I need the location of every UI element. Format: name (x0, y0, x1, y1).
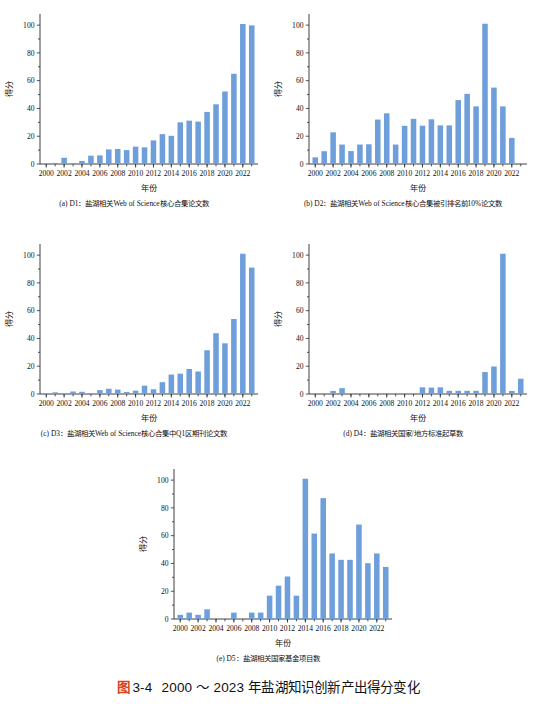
y-tick-label: 80 (296, 49, 304, 58)
bar (133, 147, 139, 164)
bar (320, 498, 326, 619)
x-tick-label: 2012 (280, 624, 295, 633)
x-tick-label: 2000 (39, 399, 54, 408)
x-tick-label: 2016 (182, 399, 197, 408)
bar (348, 151, 354, 164)
x-tick-label: 2004 (343, 399, 358, 408)
x-tick-label: 2000 (39, 169, 54, 178)
bar (303, 479, 309, 619)
y-tick-label: 60 (27, 76, 35, 85)
bar (473, 391, 479, 394)
bar (240, 24, 246, 164)
x-tick-label: 2004 (74, 169, 89, 178)
bar (267, 596, 273, 619)
bar (43, 164, 49, 165)
y-tick-label: 60 (296, 306, 304, 315)
y-tick-label: 80 (27, 49, 35, 58)
panel-caption-d: (d) D4：盐湖相关国家/地方标准起草数 (269, 428, 537, 439)
x-tick-label: 2008 (379, 399, 394, 408)
figure-title: 2000 ～ 2023 年盐湖知识创新产出得分变化 (162, 680, 420, 695)
y-tick-label: 0 (31, 390, 35, 399)
y-tick-label: 60 (27, 306, 35, 315)
bar (88, 156, 94, 164)
y-tick-label: 100 (23, 251, 35, 260)
y-tick-label: 100 (157, 476, 169, 485)
bar (106, 389, 112, 394)
panel-caption-c: (c) D3：盐湖相关Web of Science核心合集中Q1区期刊论文数 (0, 428, 268, 439)
x-tick-label: 2004 (208, 624, 223, 633)
x-tick-label: 2010 (397, 399, 412, 408)
bar (500, 254, 506, 394)
x-tick-label: 2008 (379, 169, 394, 178)
y-axis-title: 得分 (4, 311, 14, 327)
bar (455, 100, 461, 164)
bar (294, 596, 300, 619)
x-axis-title: 年份 (410, 183, 426, 193)
plot-area-e: 0204060801002000200220042006200820102012… (134, 455, 402, 653)
bar (97, 390, 103, 394)
figure-number: 3-4 (132, 680, 152, 695)
bar (97, 155, 103, 164)
bar (240, 254, 246, 394)
x-tick-label: 2020 (486, 169, 501, 178)
panel-b: 0204060801002000200220042006200820102012… (269, 0, 537, 230)
x-tick-label: 2022 (235, 399, 250, 408)
x-tick-label: 2004 (74, 399, 89, 408)
bar (186, 121, 192, 164)
bar (160, 382, 166, 394)
x-tick-label: 2010 (128, 169, 143, 178)
y-axis-title: 得分 (273, 81, 283, 97)
panel-e: 0204060801002000200220042006200820102012… (134, 455, 402, 685)
bar (330, 391, 336, 394)
bar (151, 389, 157, 394)
bar (178, 122, 184, 164)
bar (222, 343, 228, 394)
bar (231, 613, 237, 619)
x-axis-title: 年份 (410, 413, 426, 423)
x-tick-label: 2014 (433, 399, 448, 408)
x-tick-label: 2016 (316, 624, 331, 633)
x-tick-label: 2008 (110, 169, 125, 178)
bar (204, 350, 210, 394)
bar (115, 390, 121, 394)
bar (213, 333, 219, 394)
bar (160, 134, 166, 164)
y-tick-label: 0 (300, 160, 304, 169)
bar (365, 563, 371, 619)
x-tick-label: 2016 (451, 169, 466, 178)
bar (169, 136, 175, 164)
y-axis-title: 得分 (273, 311, 283, 327)
x-tick-label: 2022 (504, 399, 519, 408)
bar (186, 613, 192, 619)
bar (347, 560, 353, 619)
bar (195, 122, 201, 164)
panel-caption-e: (e) D5：盐湖相关国家基金项目数 (134, 653, 402, 664)
bar-chart-D4: 0204060801002000200220042006200820102012… (269, 230, 537, 428)
bar (195, 615, 201, 619)
x-tick-label: 2014 (164, 399, 179, 408)
panel-caption-a: (a) D1：盐湖相关Web of Science核心合集论文数 (0, 198, 268, 209)
figure-tag: 图 (117, 680, 130, 695)
x-tick-label: 2010 (262, 624, 277, 633)
x-tick-label: 2018 (199, 399, 214, 408)
bar (338, 560, 344, 619)
x-tick-label: 2014 (164, 169, 179, 178)
y-axis-title: 得分 (138, 536, 148, 552)
bar (393, 145, 399, 164)
bar (177, 615, 183, 619)
x-tick-label: 2006 (226, 624, 241, 633)
bar-chart-D3: 0204060801002000200220042006200820102012… (0, 230, 268, 428)
bar (231, 74, 237, 164)
bar (366, 144, 372, 164)
plot-area-a: 0204060801002000200220042006200820102012… (0, 0, 268, 198)
bar (491, 367, 497, 395)
bar (356, 525, 362, 619)
plot-area-b: 0204060801002000200220042006200820102012… (269, 0, 537, 198)
bar (124, 150, 130, 164)
y-tick-label: 40 (161, 559, 169, 568)
y-tick-label: 20 (161, 587, 169, 596)
x-tick-label: 2002 (57, 169, 72, 178)
y-tick-label: 40 (296, 334, 304, 343)
bar (249, 613, 255, 619)
y-tick-label: 0 (165, 615, 169, 624)
